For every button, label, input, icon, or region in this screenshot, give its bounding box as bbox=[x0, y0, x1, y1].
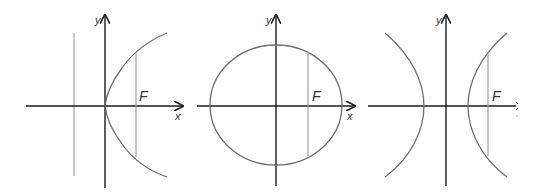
parabola-panel: F x y bbox=[26, 14, 183, 188]
conic-sections-figure: F x y F x y F y bbox=[0, 0, 535, 193]
ellipse-panel: F x y bbox=[197, 14, 355, 186]
y-axis-label: y bbox=[265, 14, 273, 26]
focus-label: F bbox=[139, 88, 149, 104]
hyperbola-left-branch bbox=[385, 33, 424, 177]
y-axis-label: y bbox=[435, 14, 443, 26]
x-axis-label: x bbox=[346, 110, 353, 122]
y-axis-label: y bbox=[94, 14, 102, 26]
hyperbola-panel: F y bbox=[368, 14, 518, 186]
focus-label: F bbox=[492, 88, 502, 104]
clipped-arrow-icon bbox=[516, 102, 518, 104]
x-axis-label: x bbox=[174, 110, 181, 122]
focus-label: F bbox=[312, 88, 322, 104]
clipped-x-label-fragment bbox=[516, 115, 517, 116]
clipped-arrow-icon bbox=[516, 108, 518, 110]
